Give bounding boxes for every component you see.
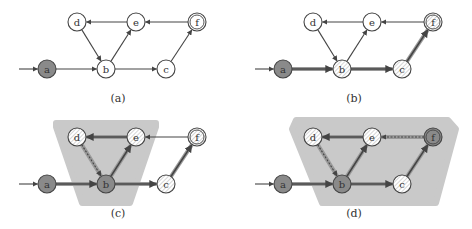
panel-c: abcdef(c) — [19, 123, 206, 220]
node-b: b — [333, 175, 351, 193]
node-label: d — [74, 132, 81, 143]
node-d: d — [68, 13, 86, 31]
node-a: a — [274, 60, 292, 78]
panel-d: abcdef(d) — [255, 120, 456, 220]
edge-c-f — [407, 30, 428, 62]
node-b: b — [97, 175, 115, 193]
panel-caption: (b) — [346, 92, 362, 105]
node-label: a — [280, 179, 286, 190]
node-label: e — [133, 132, 139, 143]
node-e: e — [127, 128, 145, 146]
node-label: b — [103, 64, 109, 75]
node-f: f — [188, 13, 206, 31]
panel-b: abcdef(b) — [255, 13, 442, 105]
node-label: c — [399, 179, 405, 190]
edge-b-e — [111, 30, 131, 61]
node-label: e — [369, 132, 375, 143]
node-a: a — [274, 175, 292, 193]
node-b: b — [333, 60, 351, 78]
node-label: e — [133, 17, 139, 28]
node-e: e — [127, 13, 145, 31]
node-label: a — [44, 179, 50, 190]
edge-d-b — [318, 30, 337, 61]
panel-caption: (c) — [111, 207, 126, 220]
node-label: b — [339, 64, 345, 75]
node-c: c — [393, 175, 411, 193]
node-d: d — [304, 128, 322, 146]
node-b: b — [97, 60, 115, 78]
edge-c-f — [171, 145, 192, 177]
panel-caption: (a) — [110, 92, 125, 105]
node-label: b — [339, 179, 345, 190]
node-f: f — [188, 128, 206, 146]
node-label: b — [103, 179, 109, 190]
node-label: d — [310, 132, 317, 143]
node-c: c — [157, 175, 175, 193]
panel-caption: (d) — [346, 207, 362, 220]
node-a: a — [38, 60, 56, 78]
node-label: c — [163, 64, 169, 75]
edge-d-b — [82, 30, 101, 61]
node-d: d — [68, 128, 86, 146]
node-f: f — [424, 128, 442, 146]
node-label: c — [163, 179, 169, 190]
edge-c-f — [171, 30, 192, 62]
diagram-canvas: abcdef(a)abcdef(b)abcdef(c)abcdef(d) — [0, 0, 472, 229]
node-e: e — [363, 128, 381, 146]
node-a: a — [38, 175, 56, 193]
node-label: a — [280, 64, 286, 75]
node-label: d — [74, 17, 81, 28]
node-label: c — [399, 64, 405, 75]
node-f: f — [424, 13, 442, 31]
node-label: d — [310, 17, 317, 28]
node-label: e — [369, 17, 375, 28]
edge-b-e — [347, 30, 367, 61]
node-c: c — [157, 60, 175, 78]
node-label: a — [44, 64, 50, 75]
panel-a: abcdef(a) — [19, 13, 206, 105]
node-c: c — [393, 60, 411, 78]
node-d: d — [304, 13, 322, 31]
node-e: e — [363, 13, 381, 31]
